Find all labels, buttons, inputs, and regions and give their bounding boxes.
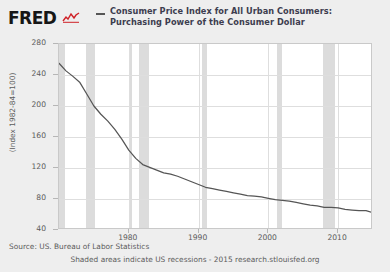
y-tick-label: 280 — [0, 39, 46, 47]
fred-logo: FRED — [8, 8, 56, 28]
red-chart-squiggle-icon — [62, 12, 80, 23]
plot-inner — [59, 44, 371, 228]
x-tick-label: 1990 — [178, 233, 218, 242]
source-text: Source: US. Bureau of Labor Statistics — [9, 242, 149, 251]
series-line-purchasing-power — [59, 44, 371, 228]
legend-series-label: Consumer Price Index for All Urban Consu… — [110, 6, 384, 28]
attribution-text: Shaded areas indicate US recessions - 20… — [0, 255, 390, 264]
y-tick-mark — [53, 229, 58, 230]
y-tick-label: 40 — [0, 225, 46, 233]
fred-chart-container: FRED Consumer Price Index for All Urban … — [0, 0, 390, 272]
legend-line-swatch — [96, 13, 105, 15]
plot-area — [58, 43, 372, 229]
y-axis-label: (Index 1982-84=100) — [8, 53, 17, 173]
y-tick-label: 80 — [0, 194, 46, 202]
x-tick-label: 2010 — [317, 233, 357, 242]
legend: Consumer Price Index for All Urban Consu… — [96, 6, 384, 28]
chart-header: FRED Consumer Price Index for All Urban … — [0, 0, 390, 34]
x-tick-label: 1980 — [108, 233, 148, 242]
x-tick-label: 2000 — [247, 233, 287, 242]
